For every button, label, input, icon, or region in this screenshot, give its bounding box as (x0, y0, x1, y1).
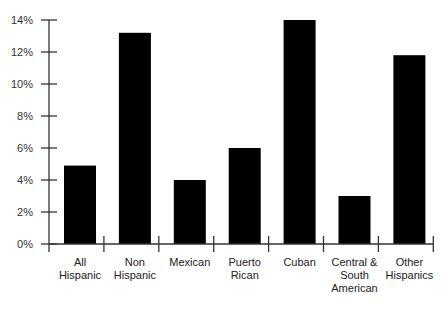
y-tick-label: 14% (11, 14, 33, 26)
x-tick-label: Cuban (283, 256, 315, 268)
y-tick-label: 2% (17, 206, 33, 218)
bars (64, 20, 425, 244)
x-tick-label: NonHispanic (114, 256, 157, 281)
y-tick-label: 8% (17, 110, 33, 122)
y-tick-label: 6% (17, 142, 33, 154)
bar-central-south-american (339, 196, 371, 244)
bar-other-hispanics (393, 55, 425, 244)
bar-cuban (284, 20, 316, 244)
y-axis: 0%2%4%6%8%10%12%14% (11, 14, 57, 252)
bar-chart: 0%2%4%6%8%10%12%14% AllHispanicNonHispan… (0, 0, 446, 310)
y-tick-label: 12% (11, 46, 33, 58)
x-tick-label: PuertoRican (228, 256, 260, 281)
bar-non-hispanic (119, 33, 151, 244)
x-axis: AllHispanicNonHispanicMexicanPuertoRican… (49, 236, 434, 294)
y-tick-label: 4% (17, 174, 33, 186)
x-tick-label: Central &SouthAmerican (331, 256, 378, 294)
y-tick-label: 0% (17, 238, 33, 250)
x-tick-label: OtherHispanics (386, 256, 434, 281)
bar-all-hispanic (64, 166, 96, 244)
y-tick-label: 10% (11, 78, 33, 90)
x-tick-label: AllHispanic (59, 256, 102, 281)
bar-mexican (174, 180, 206, 244)
bar-puerto-rican (229, 148, 261, 244)
x-tick-label: Mexican (169, 256, 210, 268)
